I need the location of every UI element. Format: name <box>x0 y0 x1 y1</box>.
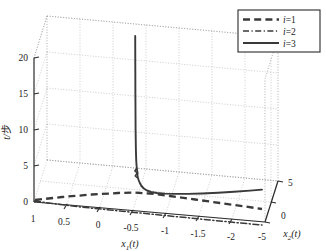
chart-container: 0 5 10 15 20 1 0.5 0 -0.5 -1 -1.5 -2 -5 … <box>0 0 326 251</box>
tick-label-x-m2: -2 <box>227 232 235 242</box>
tick-label-x-1: 1 <box>31 214 36 224</box>
tick-label-y-5: 5 <box>288 178 293 188</box>
tick-label-t-20: 20 <box>19 53 29 63</box>
y-axis-title-tail: (t) <box>291 228 301 240</box>
tick-label-x-m05: -0.5 <box>123 223 138 233</box>
chart-svg: 0 5 10 15 20 1 0.5 0 -0.5 -1 -1.5 -2 -5 … <box>0 0 326 251</box>
tick-label-t-5: 5 <box>23 161 28 171</box>
t-axis-title: t/步 <box>1 124 12 140</box>
legend[interactable]: i=1 i=2 i=3 <box>238 10 320 52</box>
tick-label-x-m1: -1 <box>161 226 169 236</box>
legend-label-i1-value: 1 <box>291 15 296 25</box>
tick-label-y-0: 0 <box>281 211 286 221</box>
x-axis-title-tail: (t) <box>129 238 139 250</box>
tick-label-y-m5: -5 <box>258 232 266 242</box>
tick-label-t-10: 10 <box>19 125 29 135</box>
tick-label-x-05: 0.5 <box>58 217 70 227</box>
tick-label-t-0: 0 <box>23 197 28 207</box>
legend-label-i2-value: 2 <box>291 27 296 37</box>
legend-label-i1: i=1 <box>283 15 296 25</box>
t-axis-title-cjk: 步 <box>1 124 12 134</box>
legend-label-i3: i=3 <box>283 39 296 49</box>
legend-label-i2: i=2 <box>283 27 296 37</box>
legend-label-i3-value: 3 <box>291 39 296 49</box>
tick-label-t-15: 15 <box>19 89 29 99</box>
tick-label-x-m15: -1.5 <box>190 229 205 239</box>
tick-label-x-0: 0 <box>96 220 101 230</box>
